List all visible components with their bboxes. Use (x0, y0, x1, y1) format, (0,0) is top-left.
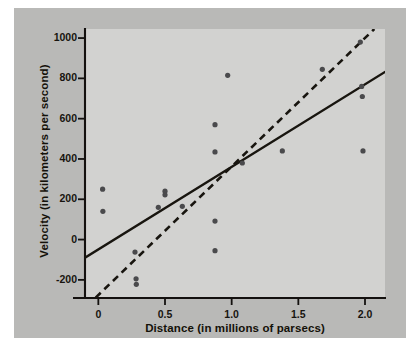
data-point (225, 73, 230, 78)
x-tick-label: 1.5 (268, 308, 328, 320)
y-axis-title: Velocity (in kilometers per second) (38, 31, 50, 291)
data-point (359, 84, 364, 89)
data-point (100, 187, 105, 192)
data-point (360, 94, 365, 99)
data-point (320, 67, 325, 72)
axes-group (73, 28, 386, 298)
chart-svg (0, 0, 419, 354)
x-tick-label: 0.5 (135, 308, 195, 320)
data-point (358, 39, 363, 44)
data-point (360, 148, 365, 153)
data-point (212, 149, 217, 154)
regression-lines-group (85, 29, 385, 298)
figure-container: -2000200400600800100000.51.01.52.0 Dista… (0, 0, 419, 354)
data-point (134, 282, 139, 287)
data-point (212, 248, 217, 253)
x-axis-title: Distance (in millions of parsecs) (85, 322, 385, 334)
x-tick-label: 2.0 (335, 308, 395, 320)
x-tick-label: 0 (68, 308, 128, 320)
data-point (240, 160, 245, 165)
data-point (280, 148, 285, 153)
data-point (132, 249, 137, 254)
data-point (212, 218, 217, 223)
data-point (156, 205, 161, 210)
dashed-regression-line (96, 29, 375, 298)
x-tick-label: 1.0 (202, 308, 262, 320)
data-point (162, 192, 167, 197)
data-point (133, 276, 138, 281)
scatter-points-group (100, 39, 366, 286)
data-point (100, 209, 105, 214)
data-point (180, 204, 185, 209)
data-point (212, 122, 217, 127)
